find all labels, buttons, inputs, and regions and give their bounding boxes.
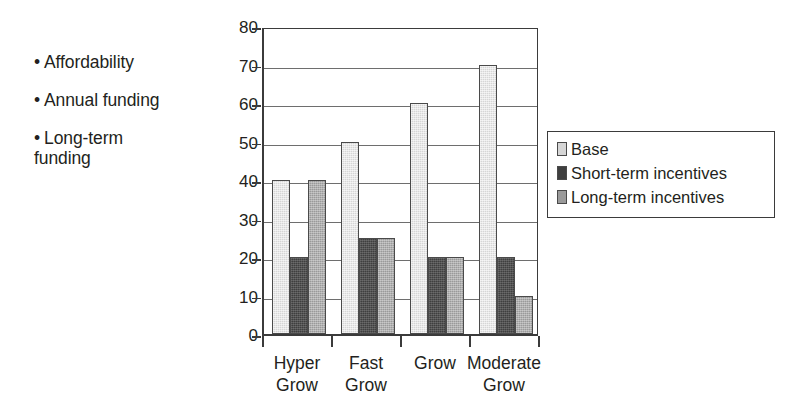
bar: [410, 103, 428, 334]
y-axis-tick: [252, 259, 261, 261]
legend-swatch-long-term: [557, 190, 567, 204]
bar: [341, 142, 359, 335]
legend-swatch-short-term: [557, 166, 567, 180]
list-item: •Long-term funding: [34, 128, 209, 168]
plot-area: [262, 28, 538, 336]
bullet-marker: •: [34, 90, 40, 110]
bar: [479, 65, 497, 335]
bar: [377, 238, 395, 334]
y-axis-tick: [252, 67, 261, 69]
x-axis-tick: [469, 336, 471, 347]
bar: [428, 257, 446, 334]
bullet-text: Affordability: [44, 52, 134, 72]
bullet-marker: •: [34, 128, 40, 148]
y-axis-tick: [252, 28, 261, 30]
legend-label: Base: [571, 140, 609, 158]
list-item: •Affordability: [34, 52, 209, 72]
bullet-list: •Affordability •Annual funding •Long-ter…: [34, 52, 209, 186]
x-axis-tick: [538, 336, 540, 347]
bar: [497, 257, 515, 334]
y-axis-tick: [252, 221, 261, 223]
chart-legend: Base Short-term incentives Long-term inc…: [547, 131, 775, 218]
bar: [308, 180, 326, 334]
x-axis-tick: [262, 336, 264, 347]
list-item: •Annual funding: [34, 90, 209, 110]
y-axis-tick: [252, 298, 261, 300]
y-axis-tick: [252, 144, 261, 146]
x-axis-tick: [400, 336, 402, 347]
bullet-text: Long-term funding: [34, 128, 123, 168]
legend-entry: Base: [557, 140, 774, 158]
bullet-text: Annual funding: [44, 90, 159, 110]
bar: [515, 296, 533, 335]
x-axis-group-label: Moderate Grow: [459, 352, 549, 396]
bullet-marker: •: [34, 52, 40, 72]
legend-label: Long-term incentives: [571, 188, 724, 206]
y-axis-tick: [252, 336, 261, 338]
bar: [359, 238, 377, 334]
bar: [290, 257, 308, 334]
y-axis-tick: [252, 105, 261, 107]
y-axis-tick: [252, 182, 261, 184]
legend-swatch-base: [557, 142, 567, 156]
bar: [446, 257, 464, 334]
legend-entry: Long-term incentives: [557, 188, 774, 206]
x-axis-tick: [331, 336, 333, 347]
bar: [272, 180, 290, 334]
legend-entry: Short-term incentives: [557, 164, 774, 182]
legend-label: Short-term incentives: [571, 164, 727, 182]
bar-chart-figure: •Affordability •Annual funding •Long-ter…: [0, 0, 803, 418]
